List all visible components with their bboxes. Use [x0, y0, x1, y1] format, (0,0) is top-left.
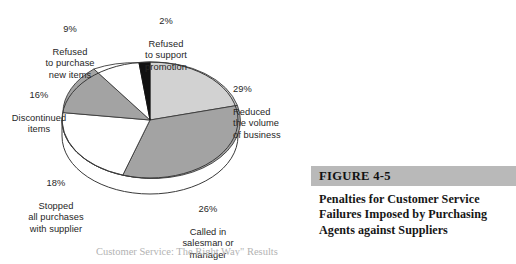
figure-number-label: FIGURE 4-5 — [319, 169, 391, 184]
pie-label-description: Stopped all purchases with supplier — [8, 201, 104, 236]
pie-label-stopped-purchases: 18% Stopped all purchases with supplier — [8, 166, 104, 247]
pie-label-percent: 16% — [0, 90, 78, 102]
source-line-cropped: Customer Service: The Right Way" Results — [96, 246, 516, 256]
pie-label-percent: 2% — [126, 16, 206, 28]
pie-label-percent: 29% — [233, 84, 317, 96]
pie-label-description: Discontinued items — [0, 113, 78, 136]
pie-label-description: Reduced the volume of business — [233, 107, 317, 142]
pie-label-percent: 9% — [28, 24, 112, 36]
figure-caption-text: Penalties for Customer Service Failures … — [311, 186, 516, 238]
pie-label-percent: 18% — [8, 178, 104, 190]
pie-label-description: Refused to purchase new items — [28, 47, 112, 82]
figure-caption-block: FIGURE 4-5 Penalties for Customer Servic… — [311, 166, 516, 238]
pie-label-description: Called in salesman or manager — [160, 227, 256, 262]
pie-label-percent: 26% — [160, 204, 256, 216]
pie-label-discontinued-items: 16% Discontinued items — [0, 78, 78, 148]
figure-number-bar: FIGURE 4-5 — [311, 166, 516, 186]
pie-label-reduced-volume: 29% Reduced the volume of business — [233, 72, 317, 153]
pie-label-refused-promotion: 2% Refused to support promotion — [126, 4, 206, 85]
pie-chart: 9% Refused to purchase new items 2% Refu… — [0, 0, 310, 253]
pie-label-description: Refused to support promotion — [126, 39, 206, 74]
